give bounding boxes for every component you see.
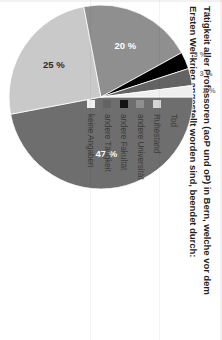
legend-swatch-icon <box>137 100 145 108</box>
legend-swatch-icon <box>120 100 128 108</box>
pie-slice-value-label: 3 % <box>200 69 213 78</box>
legend-item-label: keine Angaben <box>87 114 96 168</box>
legend-item: Ruhestand <box>153 100 162 180</box>
pie-slice-value-label: 25 % <box>43 59 65 70</box>
legend-swatch-icon <box>104 100 112 108</box>
legend-swatch-icon <box>170 100 178 108</box>
pie-slice-value-label: 3 % <box>194 50 207 59</box>
legend-swatch-icon <box>87 100 95 108</box>
pie-chart-figure: Tätigkeit aller Professoren (aoP und oP)… <box>0 0 222 340</box>
chart-legend: TodRuhestandandere Universitätandere Fak… <box>87 100 179 180</box>
legend-item: andere Tätigkeit <box>103 100 112 180</box>
legend-item: Tod <box>169 100 178 180</box>
pie-slice-value-label: 20 % <box>114 40 136 51</box>
legend-item: andere Universität <box>136 100 145 180</box>
legend-item-label: andere Tätigkeit <box>103 114 112 172</box>
legend-item-label: andere Fakultät <box>120 114 129 170</box>
legend-item-label: andere Universität <box>136 114 145 180</box>
legend-item: andere Fakultät <box>120 100 129 180</box>
pie-slice-value-label: 2 % <box>202 86 215 95</box>
legend-item-label: Ruhestand <box>153 114 162 153</box>
legend-item-label: Tod <box>169 114 178 127</box>
legend-swatch-icon <box>153 100 161 108</box>
legend-item: keine Angaben <box>87 100 96 180</box>
